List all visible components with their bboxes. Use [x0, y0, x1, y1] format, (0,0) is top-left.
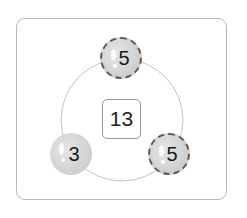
ball-top: 5: [100, 37, 142, 79]
center-total-box: 13: [102, 99, 141, 139]
ball-value: 3: [68, 143, 79, 166]
ball-bottom-right: 5: [148, 133, 190, 175]
ball-value: 5: [118, 47, 129, 70]
shine-highlight-icon: [159, 145, 164, 157]
shine-dot-icon: [61, 158, 65, 162]
shine-dot-icon: [113, 64, 117, 68]
center-total-value: 13: [110, 107, 133, 131]
shine-highlight-icon: [59, 143, 64, 155]
shine-dot-icon: [161, 160, 165, 164]
ball-bottom-left: 3: [50, 133, 92, 175]
shine-highlight-icon: [111, 49, 116, 61]
ball-value: 5: [166, 143, 177, 166]
